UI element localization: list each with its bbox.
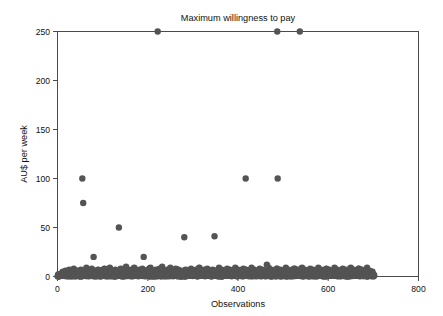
data-point-outlier [140,254,146,260]
y-axis-title: AU$ per week [19,125,29,183]
x-tick-label-0: 0 [55,284,60,294]
y-tick-label-200: 200 [36,76,51,86]
scatter-plot-canvas: Maximum willingness to pay 0 50 100 150 … [0,0,443,316]
data-point [370,271,376,277]
data-point-outlier [211,233,217,239]
data-point-outlier [154,28,160,34]
x-tick-label-400: 400 [231,284,246,294]
data-point-outlier [275,175,281,181]
data-point-outlier [297,28,303,34]
x-tick-label-200: 200 [141,284,156,294]
data-point-outlier [264,262,270,268]
data-point-outlier [242,175,248,181]
data-point-outlier [80,200,86,206]
y-tick-label-100: 100 [36,174,51,184]
data-point-outlier [79,175,85,181]
x-tick-label-600: 600 [321,284,336,294]
y-tick-label-0: 0 [45,272,50,282]
data-point-outlier [181,234,187,240]
y-tick-label-150: 150 [36,125,51,135]
y-tick-label-50: 50 [40,223,50,233]
data-point-outlier [90,254,96,260]
x-tick-label-800: 800 [411,284,426,294]
chart-figure: Maximum willingness to pay 0 50 100 150 … [0,0,443,316]
chart-title: Maximum willingness to pay [181,13,296,23]
y-tick-label-250: 250 [36,27,51,37]
x-axis-title: Observations [211,299,266,309]
data-point-outlier [274,28,280,34]
data-point-outlier [116,224,122,230]
